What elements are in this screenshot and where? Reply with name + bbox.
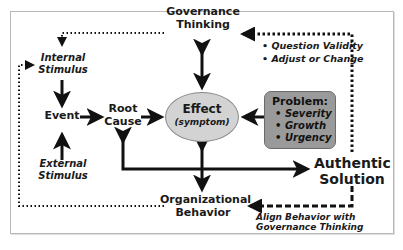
problem-item-growth: Growth bbox=[275, 120, 332, 132]
governance-line1: Governance bbox=[166, 6, 240, 19]
external-line2: Stimulus bbox=[36, 170, 90, 182]
orgbehavior-line2: Behavior bbox=[160, 207, 246, 220]
align-line1: Align Behavior with bbox=[256, 212, 348, 222]
node-authentic-solution: Authentic Solution bbox=[314, 155, 390, 187]
rootcause-line2: Cause bbox=[104, 116, 142, 129]
bullet-adjust-or-change: Adjust or Change bbox=[262, 52, 363, 65]
bullet-question-validity: Question Validity bbox=[262, 39, 363, 52]
effect-subtitle: (symptom) bbox=[166, 116, 238, 128]
align-line2: Governance Thinking bbox=[256, 222, 348, 232]
problem-title: Problem: bbox=[265, 95, 335, 108]
node-internal-stimulus: Internal Stimulus bbox=[36, 52, 90, 75]
annotation-align-behavior: Align Behavior with Governance Thinking bbox=[256, 212, 348, 233]
rootcause-line1: Root bbox=[104, 103, 142, 116]
problem-item-urgency: Urgency bbox=[275, 132, 332, 144]
internal-line1: Internal bbox=[36, 52, 90, 64]
node-event: Event bbox=[44, 110, 80, 123]
dotted-orgbehavior-to-internal bbox=[19, 65, 164, 206]
event-label: Event bbox=[44, 110, 80, 123]
solution-line1: Authentic bbox=[314, 155, 390, 171]
problem-item-severity: Severity bbox=[275, 108, 332, 120]
node-root-cause: Root Cause bbox=[104, 103, 142, 128]
governance-line2: Thinking bbox=[166, 19, 240, 32]
solution-line2: Solution bbox=[314, 171, 390, 187]
dashed-solution-to-orgbehavior bbox=[250, 186, 352, 206]
node-effect: Effect (symptom) bbox=[165, 92, 239, 142]
effect-title: Effect bbox=[166, 102, 238, 116]
problem-list: Severity Growth Urgency bbox=[275, 108, 332, 144]
dotted-governance-to-internal bbox=[62, 33, 164, 45]
external-line1: External bbox=[36, 158, 90, 170]
feedback-bullets: Question Validity Adjust or Change bbox=[262, 39, 363, 65]
internal-line2: Stimulus bbox=[36, 64, 90, 76]
node-problem: Problem: Severity Growth Urgency bbox=[264, 91, 336, 149]
node-governance-thinking: Governance Thinking bbox=[166, 6, 240, 31]
node-organizational-behavior: Organizational Behavior bbox=[160, 194, 246, 219]
node-external-stimulus: External Stimulus bbox=[36, 158, 90, 181]
orgbehavior-line1: Organizational bbox=[160, 194, 246, 207]
